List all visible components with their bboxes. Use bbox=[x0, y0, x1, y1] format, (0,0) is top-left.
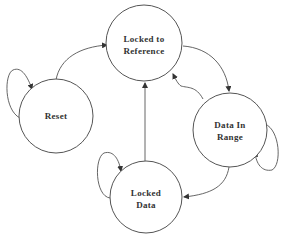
edge-locked-ref-to-data-in-range bbox=[183, 46, 229, 91]
state-label: Reference bbox=[123, 46, 164, 56]
state-diagram: Locked to Reference Reset Data In Range … bbox=[0, 0, 285, 238]
state-label: Data In bbox=[214, 120, 245, 130]
state-data-in-range: Data In Range bbox=[193, 93, 267, 167]
edge-reset-to-locked-ref bbox=[56, 45, 107, 80]
edge-data-in-range-to-locked-ref bbox=[173, 74, 203, 99]
state-label: Locked to bbox=[124, 34, 165, 44]
edge-data-in-range-to-locked-data bbox=[184, 167, 229, 197]
state-label: Range bbox=[217, 132, 243, 142]
state-label: Locked bbox=[131, 188, 161, 198]
state-reset: Reset bbox=[19, 79, 93, 153]
state-locked-data: Locked Data bbox=[110, 161, 182, 233]
state-label: Reset bbox=[45, 111, 68, 121]
state-locked-to-reference: Locked to Reference bbox=[106, 5, 182, 81]
state-label: Data bbox=[136, 200, 156, 210]
